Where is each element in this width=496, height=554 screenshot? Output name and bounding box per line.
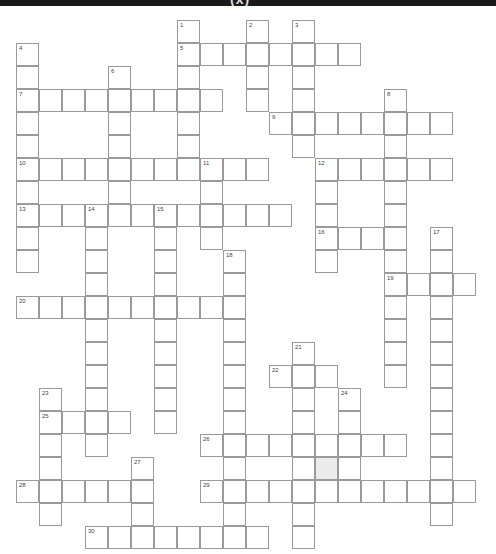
crossword-cell[interactable] bbox=[246, 89, 269, 112]
crossword-cell[interactable] bbox=[154, 158, 177, 181]
crossword-cell[interactable] bbox=[292, 89, 315, 112]
crossword-cell[interactable] bbox=[384, 204, 407, 227]
crossword-cell[interactable]: 12 bbox=[315, 158, 338, 181]
crossword-cell[interactable] bbox=[108, 411, 131, 434]
crossword-cell[interactable] bbox=[85, 411, 108, 434]
crossword-cell[interactable] bbox=[292, 411, 315, 434]
crossword-cell[interactable] bbox=[407, 480, 430, 503]
crossword-cell[interactable] bbox=[246, 43, 269, 66]
crossword-cell[interactable] bbox=[246, 66, 269, 89]
crossword-cell[interactable] bbox=[315, 181, 338, 204]
crossword-cell[interactable] bbox=[292, 434, 315, 457]
crossword-cell[interactable] bbox=[453, 273, 476, 296]
crossword-cell[interactable] bbox=[154, 250, 177, 273]
crossword-cell[interactable]: 28 bbox=[16, 480, 39, 503]
crossword-cell[interactable] bbox=[39, 158, 62, 181]
crossword-cell[interactable] bbox=[384, 158, 407, 181]
crossword-cell[interactable] bbox=[292, 480, 315, 503]
crossword-cell[interactable] bbox=[338, 227, 361, 250]
crossword-cell[interactable] bbox=[430, 112, 453, 135]
crossword-cell[interactable] bbox=[131, 503, 154, 526]
crossword-cell[interactable]: 5 bbox=[177, 43, 200, 66]
crossword-cell[interactable] bbox=[108, 89, 131, 112]
crossword-cell[interactable] bbox=[62, 204, 85, 227]
crossword-cell[interactable] bbox=[315, 434, 338, 457]
crossword-cell[interactable] bbox=[384, 296, 407, 319]
crossword-cell[interactable] bbox=[384, 227, 407, 250]
crossword-cell[interactable]: 24 bbox=[338, 388, 361, 411]
crossword-cell[interactable] bbox=[430, 457, 453, 480]
crossword-cell[interactable]: 1 bbox=[177, 20, 200, 43]
crossword-cell[interactable] bbox=[62, 411, 85, 434]
crossword-cell[interactable] bbox=[16, 250, 39, 273]
crossword-cell[interactable] bbox=[223, 480, 246, 503]
crossword-cell[interactable] bbox=[269, 434, 292, 457]
crossword-cell[interactable] bbox=[430, 273, 453, 296]
crossword-cell[interactable] bbox=[85, 227, 108, 250]
crossword-cell[interactable] bbox=[177, 89, 200, 112]
crossword-cell[interactable] bbox=[384, 181, 407, 204]
crossword-cell[interactable] bbox=[430, 411, 453, 434]
crossword-cell[interactable]: 2 bbox=[246, 20, 269, 43]
crossword-cell[interactable] bbox=[430, 365, 453, 388]
crossword-cell[interactable] bbox=[384, 112, 407, 135]
crossword-cell[interactable] bbox=[223, 296, 246, 319]
crossword-cell[interactable] bbox=[315, 480, 338, 503]
crossword-cell[interactable] bbox=[108, 296, 131, 319]
crossword-cell[interactable] bbox=[16, 112, 39, 135]
crossword-cell[interactable] bbox=[177, 296, 200, 319]
crossword-cell[interactable] bbox=[62, 89, 85, 112]
crossword-cell[interactable]: 11 bbox=[200, 158, 223, 181]
crossword-cell[interactable]: 4 bbox=[16, 43, 39, 66]
crossword-cell[interactable] bbox=[315, 204, 338, 227]
crossword-cell[interactable] bbox=[154, 411, 177, 434]
crossword-cell[interactable] bbox=[154, 273, 177, 296]
crossword-cell[interactable]: 8 bbox=[384, 89, 407, 112]
crossword-cell[interactable] bbox=[223, 273, 246, 296]
crossword-cell[interactable] bbox=[39, 434, 62, 457]
crossword-cell[interactable] bbox=[85, 319, 108, 342]
crossword-cell[interactable] bbox=[246, 480, 269, 503]
crossword-cell[interactable] bbox=[177, 204, 200, 227]
crossword-cell[interactable] bbox=[223, 365, 246, 388]
crossword-cell[interactable] bbox=[177, 66, 200, 89]
crossword-cell[interactable] bbox=[338, 457, 361, 480]
crossword-cell[interactable]: 14 bbox=[85, 204, 108, 227]
crossword-cell[interactable] bbox=[223, 204, 246, 227]
crossword-cell[interactable] bbox=[177, 526, 200, 549]
crossword-cell[interactable] bbox=[223, 434, 246, 457]
crossword-cell[interactable]: 27 bbox=[131, 457, 154, 480]
crossword-cell[interactable] bbox=[131, 89, 154, 112]
crossword-cell[interactable] bbox=[292, 457, 315, 480]
crossword-cell[interactable] bbox=[361, 112, 384, 135]
crossword-cell[interactable] bbox=[200, 89, 223, 112]
crossword-cell[interactable]: 19 bbox=[384, 273, 407, 296]
crossword-cell[interactable] bbox=[292, 43, 315, 66]
crossword-cell[interactable] bbox=[85, 89, 108, 112]
crossword-cell[interactable] bbox=[131, 480, 154, 503]
crossword-cell[interactable] bbox=[154, 526, 177, 549]
crossword-cell[interactable] bbox=[62, 296, 85, 319]
crossword-cell[interactable] bbox=[154, 227, 177, 250]
crossword-cell[interactable] bbox=[177, 158, 200, 181]
crossword-cell[interactable]: 17 bbox=[430, 227, 453, 250]
crossword-cell[interactable] bbox=[85, 250, 108, 273]
crossword-cell[interactable] bbox=[453, 480, 476, 503]
crossword-cell[interactable] bbox=[108, 135, 131, 158]
crossword-cell[interactable] bbox=[430, 250, 453, 273]
crossword-cell[interactable] bbox=[223, 342, 246, 365]
crossword-cell[interactable] bbox=[430, 319, 453, 342]
crossword-cell[interactable]: 26 bbox=[200, 434, 223, 457]
crossword-cell[interactable] bbox=[430, 342, 453, 365]
crossword-cell[interactable] bbox=[108, 526, 131, 549]
crossword-cell[interactable] bbox=[246, 158, 269, 181]
crossword-cell[interactable] bbox=[85, 273, 108, 296]
crossword-cell[interactable] bbox=[361, 480, 384, 503]
crossword-cell[interactable] bbox=[430, 158, 453, 181]
crossword-cell[interactable] bbox=[338, 112, 361, 135]
crossword-cell[interactable] bbox=[108, 480, 131, 503]
crossword-cell[interactable]: 25 bbox=[39, 411, 62, 434]
crossword-cell[interactable] bbox=[430, 480, 453, 503]
crossword-cell[interactable] bbox=[223, 411, 246, 434]
crossword-cell[interactable] bbox=[131, 526, 154, 549]
